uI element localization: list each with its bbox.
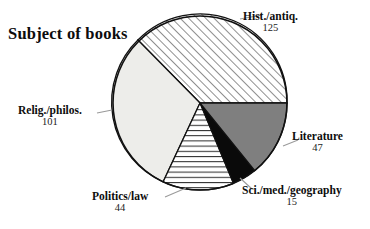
slice-label-value: 15 <box>242 196 342 207</box>
page-title: Subject of books <box>8 24 128 44</box>
pie-chart-figure: Subject of books <box>0 0 370 229</box>
slice-label-value: 47 <box>292 142 343 153</box>
slice-label-name: Sci./med./geography <box>242 184 342 196</box>
slice-label-literature[interactable]: Literature 47 <box>292 130 343 154</box>
slice-label-name: Literature <box>292 130 343 142</box>
slice-label-politics-law[interactable]: Politics/law 44 <box>92 190 148 214</box>
slice-label-value: 44 <box>92 202 148 213</box>
slice-label-name: Relig./philos. <box>18 104 82 116</box>
slice-label-relig-philos[interactable]: Relig./philos. 101 <box>18 104 82 128</box>
leader-line-relig-philos <box>97 110 112 113</box>
slice-label-value: 101 <box>18 116 82 127</box>
slice-label-hist-antiq[interactable]: Hist./antiq. 125 <box>243 10 298 34</box>
leader-line-politics-law <box>165 188 186 197</box>
slice-label-value: 125 <box>243 22 298 33</box>
slice-label-name: Hist./antiq. <box>243 10 298 22</box>
slice-label-name: Politics/law <box>92 190 148 202</box>
slice-label-sci-med-geography[interactable]: Sci./med./geography 15 <box>242 184 342 208</box>
